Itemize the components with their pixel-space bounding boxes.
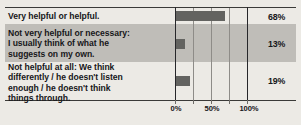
gridline-50: [211, 8, 212, 100]
row-label-2-line-2: I usually think of what he: [8, 38, 163, 48]
gridline-75: [229, 8, 230, 100]
row-label-2-line-3: suggests on my own.: [8, 49, 163, 59]
axis-line-hundred: [247, 7, 248, 101]
row-label-3-line-2: differently / he doesn't listen: [8, 72, 163, 82]
tick-mark-75: [229, 100, 230, 104]
bar-row-3: [176, 76, 190, 86]
row-label-1-line-1: Very helpful or helpful.: [8, 11, 163, 21]
plot-area: [175, 8, 255, 100]
tick-label-50: 50%: [205, 104, 220, 113]
value-label-1: 68%: [268, 12, 285, 22]
axis-line-zero: [175, 7, 176, 101]
row-label-3-line-3: enough / he doesn't think: [8, 83, 163, 93]
survey-bar-chart: Very helpful or helpful. Not very helpfu…: [0, 0, 301, 125]
row-label-3-line-1: Not helpful at all: We think: [8, 62, 163, 72]
row-label-3: Not helpful at all: We think differently…: [8, 62, 163, 104]
row-label-2: Not very helpful or necessary: I usually…: [8, 28, 163, 59]
value-label-3: 19%: [268, 76, 285, 86]
bar-row-2: [176, 39, 185, 49]
value-label-2: 13%: [268, 39, 285, 49]
gridline-25: [193, 8, 194, 100]
tick-mark-25: [193, 100, 194, 104]
tick-label-100: 100%: [239, 104, 258, 113]
tick-label-0: 0%: [171, 104, 182, 113]
bar-row-1: [176, 11, 225, 21]
row-label-1: Very helpful or helpful.: [8, 11, 163, 21]
row-label-2-line-1: Not very helpful or necessary:: [8, 28, 163, 38]
row-label-3-line-4: things through.: [8, 93, 163, 103]
